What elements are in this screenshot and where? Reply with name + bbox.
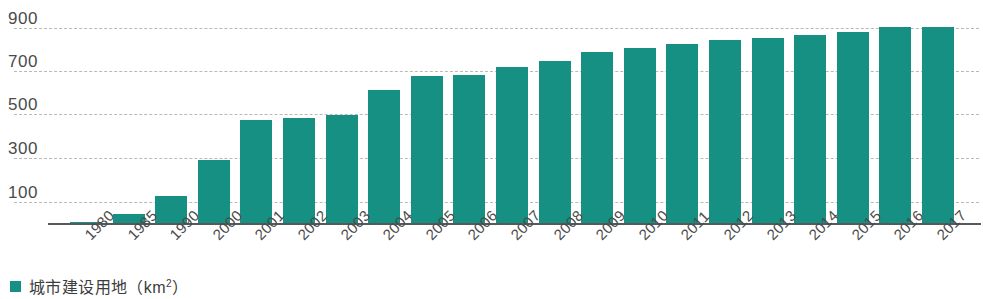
legend-label-main: 城市建设用地（km <box>29 279 166 296</box>
bar-2015 <box>837 32 869 223</box>
legend-swatch-icon <box>10 281 21 292</box>
bar-2006 <box>453 75 485 223</box>
bar-2001 <box>240 120 272 223</box>
legend-item-label: 城市建设用地（km2） <box>29 274 188 298</box>
bar-2003 <box>326 115 358 223</box>
bar-chart: 900 700 500 300 100 19801985199020002001… <box>0 0 983 299</box>
bar-2009 <box>581 52 613 223</box>
bar-2008 <box>539 61 571 224</box>
bar-2004 <box>368 90 400 223</box>
plot-area: 900 700 500 300 100 <box>0 0 983 232</box>
legend-label-tail: ） <box>172 279 188 296</box>
bar-2012 <box>709 40 741 223</box>
legend: 城市建设用地（km2） <box>10 274 188 298</box>
bar-2011 <box>666 44 698 223</box>
x-axis-labels: 1980198519902000200120022003200420052006… <box>0 225 983 273</box>
bar-2013 <box>752 38 784 223</box>
bar-2002 <box>283 118 315 223</box>
bar-2017 <box>922 27 954 223</box>
bar-2007 <box>496 67 528 223</box>
bar-2016 <box>879 27 911 223</box>
bars-layer <box>0 0 983 223</box>
bar-2005 <box>411 76 443 223</box>
bar-2010 <box>624 48 656 224</box>
bar-2014 <box>794 35 826 224</box>
